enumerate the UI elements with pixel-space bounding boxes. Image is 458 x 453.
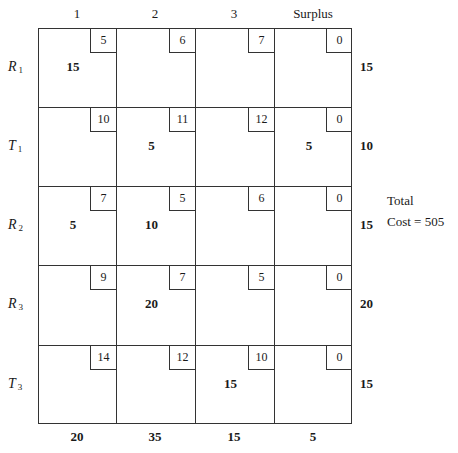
grid-row-divider <box>38 265 352 266</box>
unit-cost-box: 11 <box>169 107 195 132</box>
grid-row-divider <box>38 107 352 108</box>
unit-cost-box: 0 <box>326 345 352 370</box>
demand-value: 20 <box>38 429 116 445</box>
unit-cost-box: 5 <box>248 265 274 290</box>
row-label: R1 <box>8 59 32 75</box>
supply-value: 15 <box>360 376 373 392</box>
unit-cost-box: 6 <box>248 186 274 211</box>
allocation-value: 15 <box>53 59 93 75</box>
allocation-value: 20 <box>132 296 172 312</box>
unit-cost-box: 0 <box>326 265 352 290</box>
column-header: 1 <box>38 6 116 22</box>
allocation-value: 10 <box>132 217 172 233</box>
row-label-letter: R <box>8 59 17 74</box>
unit-cost-box: 14 <box>90 345 116 370</box>
row-label-letter: T <box>8 376 16 391</box>
unit-cost-box: 0 <box>326 107 352 132</box>
column-header: 2 <box>116 6 194 22</box>
unit-cost-box: 0 <box>326 186 352 211</box>
row-label-letter: R <box>8 296 17 311</box>
total-cost: Cost = 505 <box>387 214 444 230</box>
supply-value: 15 <box>360 217 373 233</box>
demand-value: 35 <box>116 429 194 445</box>
unit-cost-box: 9 <box>90 265 116 290</box>
allocation-value: 5 <box>53 217 93 233</box>
row-label: R3 <box>8 296 32 312</box>
row-label-letter: R <box>8 217 17 232</box>
unit-cost-box: 7 <box>169 265 195 290</box>
grid-column-divider <box>195 28 196 424</box>
row-label-subscript: 3 <box>19 302 24 312</box>
unit-cost-box: 12 <box>248 107 274 132</box>
column-header: Surplus <box>274 6 352 22</box>
row-label-subscript: 2 <box>19 223 24 233</box>
allocation-value: 5 <box>289 138 329 154</box>
unit-cost-box: 10 <box>90 107 116 132</box>
unit-cost-box: 5 <box>90 28 116 53</box>
unit-cost-box: 6 <box>169 28 195 53</box>
supply-value: 10 <box>360 138 373 154</box>
unit-cost-box: 0 <box>326 28 352 53</box>
grid-column-divider <box>274 28 275 424</box>
row-label: T1 <box>8 138 32 154</box>
grid-row-divider <box>38 345 352 346</box>
row-label: T3 <box>8 376 32 392</box>
grid-column-divider <box>116 28 117 424</box>
demand-value: 15 <box>195 429 273 445</box>
total-label: Total <box>387 193 414 209</box>
row-label-subscript: 1 <box>19 65 24 75</box>
row-label-letter: T <box>8 138 16 153</box>
supply-value: 15 <box>360 59 373 75</box>
demand-value: 5 <box>274 429 352 445</box>
supply-value: 20 <box>360 296 373 312</box>
grid-row-divider <box>38 186 352 187</box>
row-label-subscript: 1 <box>18 144 23 154</box>
row-label-subscript: 3 <box>18 382 23 392</box>
allocation-value: 5 <box>132 138 172 154</box>
unit-cost-box: 10 <box>248 345 274 370</box>
allocation-value: 15 <box>211 376 251 392</box>
unit-cost-box: 7 <box>90 186 116 211</box>
unit-cost-box: 7 <box>248 28 274 53</box>
unit-cost-box: 5 <box>169 186 195 211</box>
column-header: 3 <box>195 6 273 22</box>
unit-cost-box: 12 <box>169 345 195 370</box>
row-label: R2 <box>8 217 32 233</box>
